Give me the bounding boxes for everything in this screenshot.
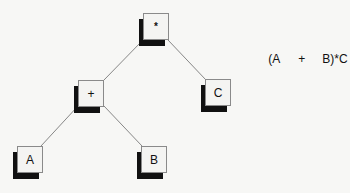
edge-plus-a [41, 106, 78, 146]
expr-part-operator: + [298, 52, 322, 66]
node-label-plus: + [78, 80, 104, 107]
expression-tree-diagram: * + C A B (A+B)*C [0, 0, 350, 193]
edge-mul-plus [104, 40, 143, 80]
node-multiply: * [143, 13, 169, 40]
edge-plus-b [104, 106, 142, 146]
node-label-c: C [205, 79, 231, 106]
node-b: B [141, 146, 167, 173]
infix-expression: (A+B)*C [255, 38, 348, 80]
node-a: A [17, 146, 43, 173]
tree-edges [0, 0, 350, 193]
node-label-multiply: * [143, 13, 169, 40]
expr-part-right: B)*C [322, 52, 347, 66]
node-c: C [205, 79, 231, 106]
node-label-a: A [17, 146, 43, 173]
node-plus: + [78, 80, 104, 107]
node-label-b: B [141, 146, 167, 173]
edge-mul-c [168, 40, 206, 80]
expr-part-left: (A [268, 52, 298, 66]
